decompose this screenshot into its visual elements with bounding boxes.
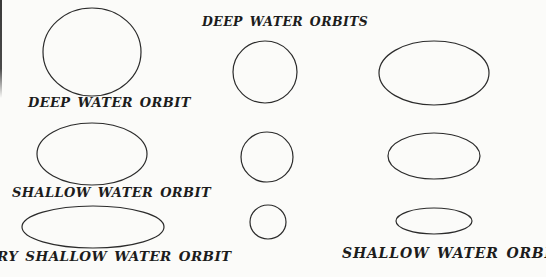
shallow-water-orbit-label: SHALLOW WATER ORBIT	[12, 186, 171, 199]
deep-water-orbit-circle	[43, 8, 141, 96]
very-shallow-water-orbit-ellipse	[22, 206, 164, 248]
deep-orbits-medium-circle	[241, 132, 293, 182]
deep-water-orbit-label: DEEP WATER ORBIT	[28, 96, 158, 109]
shallow-water-orbit-ellipse	[37, 123, 147, 185]
deep-orbits-small-circle	[250, 205, 286, 239]
wave-orbits-diagram: DEEP WATER ORBITS DEEP WATER ORBIT SHALL…	[0, 0, 546, 277]
very-shallow-water-orbit-label: RY SHALLOW WATER ORBIT	[0, 250, 232, 264]
shallow-orbits-small-ellipse	[396, 208, 472, 234]
deep-water-orbits-title: DEEP WATER ORBITS	[202, 16, 338, 29]
scan-edge-artifact	[0, 0, 2, 98]
shallow-orbits-medium-ellipse	[388, 133, 480, 179]
deep-orbits-large-circle	[233, 41, 297, 103]
shallow-orbits-large-ellipse	[379, 41, 489, 105]
orbit-shapes-svg	[0, 0, 546, 277]
shallow-water-orbits-title: SHALLOW WATER ORBITS	[342, 246, 524, 260]
